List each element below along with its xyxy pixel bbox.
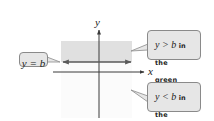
- callout-above-region: y > b in the green region.: [147, 30, 201, 60]
- callout-below-region: y < b in the yellow region.: [147, 82, 201, 112]
- above-inequality: y > b: [155, 39, 176, 50]
- callout-pointer-left: [47, 57, 60, 62]
- y-axis-label: y: [94, 16, 100, 28]
- callout-pointer-top: [131, 44, 148, 51]
- x-axis-label: x: [147, 65, 153, 77]
- below-inequality: y < b: [155, 91, 176, 102]
- green-region: [61, 41, 132, 62]
- yellow-region: [61, 62, 132, 118]
- callout-pointer-bottom: [131, 90, 148, 102]
- line-equation: y = b: [22, 57, 45, 69]
- callout-line-equation: y = b: [19, 52, 48, 67]
